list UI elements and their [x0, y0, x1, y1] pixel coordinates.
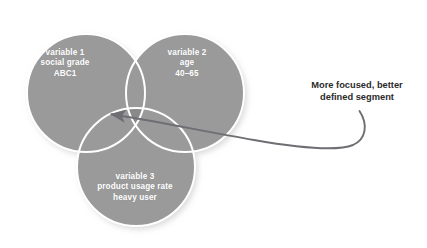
annotation-callout: More focused, better defined segment — [292, 80, 422, 104]
venn-diagram-figure: variable 1 social grade ABC1 variable 2 … — [0, 0, 427, 248]
annotation-line-1: More focused, better — [292, 80, 422, 92]
venn-diagram-canvas — [0, 0, 427, 248]
annotation-line-2: defined segment — [292, 92, 422, 104]
venn-fill-layer — [27, 34, 244, 226]
